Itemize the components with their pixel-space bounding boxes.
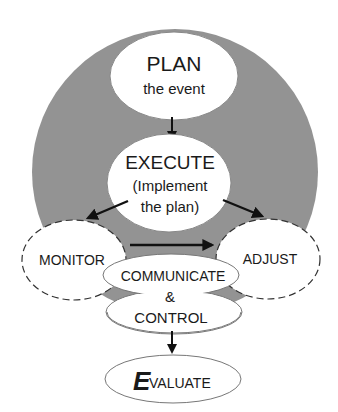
execute-line2: (Implement (132, 177, 208, 194)
execute-title: EXECUTE (125, 152, 215, 173)
communicate-line1: COMMUNICATE (121, 268, 226, 284)
evaluate-rest: VALUATE (149, 375, 211, 391)
node-monitor: MONITOR (22, 220, 126, 300)
node-execute: EXECUTE (Implement the plan) (107, 134, 231, 232)
execute-line3: the plan) (141, 198, 199, 215)
adjust-title: ADJUST (243, 251, 298, 267)
plan-title: PLAN (147, 52, 202, 75)
plan-subtitle: the event (143, 80, 206, 97)
node-plan: PLAN the event (110, 32, 238, 120)
monitor-title: MONITOR (39, 252, 105, 268)
cycle-diagram: PLAN the event EXECUTE (Implement the pl… (0, 0, 338, 412)
communicate-line3: CONTROL (134, 309, 207, 326)
communicate-line2: & (165, 288, 175, 305)
node-adjust: ADJUST (216, 219, 320, 299)
node-evaluate: E VALUATE (105, 355, 241, 403)
